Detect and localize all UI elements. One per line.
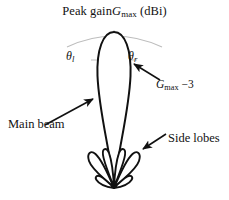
radiation-pattern-drawing <box>0 0 229 200</box>
gmax-minus-3-label: Gmax −3 <box>156 79 194 92</box>
gmax-minus-3-suffix: −3 <box>181 78 193 90</box>
theta-left-subscript: l <box>72 54 74 64</box>
peak-gain-title: Peak gainGmax (dBi) <box>0 5 229 19</box>
theta-left-label: θl <box>66 50 74 64</box>
title-symbol-subscript: max <box>121 9 137 19</box>
main-beam-label: Main beam <box>8 118 65 131</box>
title-symbol-text: G <box>112 4 121 18</box>
theta-right-subscript: r <box>134 54 137 64</box>
side-lobes-arrow <box>143 134 166 149</box>
title-units-text: (dBi) <box>140 4 167 18</box>
theta-right-label: θr <box>128 50 137 64</box>
antenna-pattern-figure: Peak gainGmax (dBi) θl θr Gmax −3 Main b… <box>0 0 229 200</box>
title-prefix-text: Peak gain <box>62 4 112 18</box>
gmax-minus-3-subscript: max <box>164 83 178 92</box>
side-lobes-label: Side lobes <box>168 132 220 145</box>
